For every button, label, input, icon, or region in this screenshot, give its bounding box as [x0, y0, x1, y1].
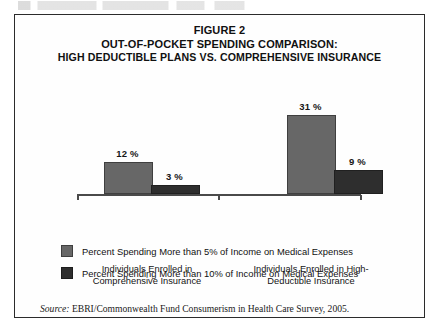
source-note: Source: EBRI/Commonwealth Fund Consumeri… [40, 303, 349, 314]
figure-title: FIGURE 2 OUT-OF-POCKET SPENDING COMPARIS… [15, 24, 424, 65]
legend-swatch-icon [61, 267, 73, 279]
legend-item-over-10pct: Percent Spending More than 10% of Income… [61, 262, 358, 284]
bar-comprehensive-over-10pct [151, 185, 200, 194]
source-label: Source: [40, 303, 69, 314]
figure-title-line-2: OUT-OF-POCKET SPENDING COMPARISON: [15, 38, 424, 52]
figure-title-line-3: HIGH DEDUCTIBLE PLANS VS. COMPREHENSIVE … [15, 51, 424, 65]
bar-highdeductible-over-5pct [287, 115, 336, 194]
x-axis-tick-left [77, 195, 79, 200]
legend-label: Percent Spending More than 10% of Income… [82, 268, 358, 279]
bar-comprehensive-over-5pct [104, 162, 153, 194]
bar-value-label: 3 % [151, 171, 198, 182]
x-axis-tick-middle [218, 195, 220, 200]
figure-box: FIGURE 2 OUT-OF-POCKET SPENDING COMPARIS… [14, 14, 425, 318]
chart-plot-area: 12 % 3 % 31 % 9 % Individuals Enrolled i… [15, 77, 424, 197]
scan-artifact [18, 1, 258, 10]
legend-label: Percent Spending More than 5% of Income … [82, 246, 353, 257]
bar-value-label: 31 % [287, 101, 334, 112]
bar-highdeductible-over-10pct [334, 170, 383, 194]
source-text: EBRI/Commonwealth Fund Consumerism in He… [72, 303, 349, 314]
bar-value-label: 9 % [334, 156, 381, 167]
figure-title-line-1: FIGURE 2 [15, 24, 424, 38]
x-axis-tick-right [360, 195, 362, 200]
legend-swatch-icon [61, 245, 73, 257]
chart-legend: Percent Spending More than 5% of Income … [61, 240, 358, 284]
bar-value-label: 12 % [104, 148, 151, 159]
legend-item-over-5pct: Percent Spending More than 5% of Income … [61, 240, 358, 262]
